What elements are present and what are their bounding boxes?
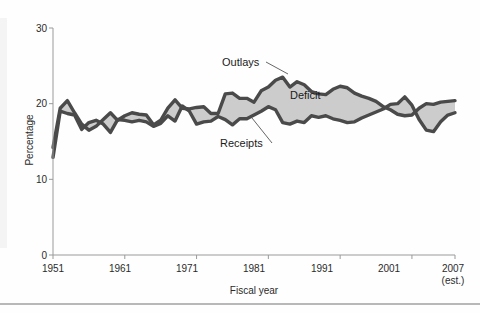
deficit-band-label: Deficit xyxy=(290,89,321,101)
figure-container: 0 10 20 30 Percentage 1951 1961 1971 198… xyxy=(0,0,480,313)
outlays-annotation-label: Outlays xyxy=(222,56,260,68)
y-axis-title: Percentage xyxy=(24,114,35,166)
x-tick-label-1981: 1981 xyxy=(243,263,266,274)
footer-divider xyxy=(0,303,480,305)
y-tick-label-20: 20 xyxy=(36,98,48,109)
y-tick-label-0: 0 xyxy=(41,250,47,261)
chart-canvas: 0 10 20 30 Percentage 1951 1961 1971 198… xyxy=(0,0,480,313)
y-tick-label-10: 10 xyxy=(36,174,48,185)
x-axis-title: Fiscal year xyxy=(230,285,279,296)
x-tick-label-1991: 1991 xyxy=(311,263,334,274)
x-tick-label-2001: 2001 xyxy=(378,263,401,274)
x-tick-label-2007: 2007 xyxy=(442,263,465,274)
x-tick-label-1961: 1961 xyxy=(109,263,132,274)
x-tick-estimate-note: (est.) xyxy=(442,275,465,286)
receipts-annotation-label: Receipts xyxy=(220,137,263,149)
x-tick-label-1971: 1971 xyxy=(176,263,199,274)
x-tick-label-1951: 1951 xyxy=(42,263,65,274)
y-tick-label-30: 30 xyxy=(36,23,48,34)
